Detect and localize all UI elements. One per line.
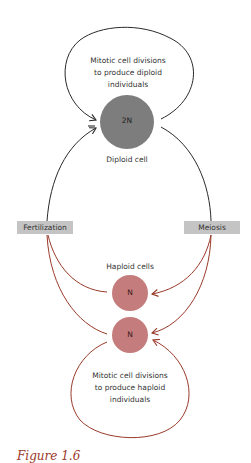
haploid-to-fertilization-line-2 [47,235,107,334]
haploid-mitosis-line-2: to produce haploid [80,382,180,394]
fertilization-to-diploid-arrow [47,128,96,221]
diploid-mitosis-line-2: to produce diploid [78,67,178,79]
haploid-symbol-2: N [115,330,145,339]
diploid-mitosis-line-3: individuals [78,79,178,91]
diploid-to-meiosis-arrow [161,127,211,221]
fertilization-label-box: Fertilization [17,221,73,234]
diploid-cell-label: Diploid cell [92,154,162,166]
haploid-cells-label: Haploid cells [95,261,165,273]
figure-caption: Figure 1.6 [17,450,80,462]
meiosis-label-box: Meiosis [184,221,240,234]
haploid-mitosis-line-1: Mitotic cell divisions [80,370,180,382]
haploid-symbol-1: N [115,288,145,297]
diploid-mitosis-text: Mitotic cell divisions to produce diploi… [78,55,178,91]
diploid-symbol: 2N [112,116,142,125]
diploid-mitosis-line-1: Mitotic cell divisions [78,55,178,67]
haploid-mitosis-text: Mitotic cell divisions to produce haploi… [80,370,180,406]
meiosis-to-haploid-arrow-2 [152,235,211,333]
haploid-mitosis-line-3: individuals [80,394,180,406]
